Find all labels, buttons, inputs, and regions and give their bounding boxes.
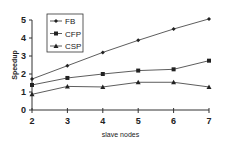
y-tick-label: 3 [21, 51, 26, 61]
y-axis-title: Speedup [11, 50, 19, 80]
x-tick-label: 4 [100, 116, 105, 126]
marker-cfp [65, 76, 69, 80]
series-line-cfp [32, 61, 209, 85]
y-tick-label: 2 [21, 69, 26, 79]
marker-fb [65, 64, 69, 68]
legend-label-fb: FB [65, 17, 75, 26]
marker-cfp [172, 67, 176, 71]
legend-marker-cfp [54, 32, 58, 36]
legend-label-csp: CSP [65, 42, 81, 51]
marker-fb [172, 27, 176, 31]
x-tick-label: 3 [65, 116, 70, 126]
y-tick-label: 5 [21, 15, 26, 25]
x-axis-title: slave nodes [102, 131, 140, 138]
x-tick-label: 2 [29, 116, 34, 126]
marker-fb [101, 50, 105, 54]
x-tick-label: 5 [136, 116, 141, 126]
series-line-csp [32, 82, 209, 94]
marker-fb [136, 38, 140, 42]
marker-fb [30, 77, 34, 81]
x-tick-label: 6 [171, 116, 176, 126]
x-tick-label: 7 [206, 116, 211, 126]
speedup-line-chart: 012345234567slave nodesSpeedupFBCFPCSP [0, 0, 226, 147]
marker-cfp [30, 83, 34, 87]
marker-cfp [101, 72, 105, 76]
marker-cfp [207, 59, 211, 63]
legend-label-cfp: CFP [65, 30, 81, 39]
marker-cfp [136, 69, 140, 73]
y-tick-label: 1 [21, 87, 26, 97]
y-tick-label: 4 [21, 33, 26, 43]
marker-fb [207, 17, 211, 21]
y-tick-label: 0 [21, 105, 26, 115]
